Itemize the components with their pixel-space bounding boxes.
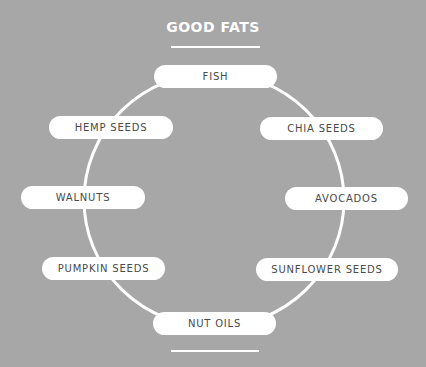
item-avocados: AVOCADOS: [285, 187, 408, 210]
item-chia-seeds: CHIA SEEDS: [260, 117, 383, 140]
bottom-rule: [171, 350, 259, 352]
item-label: SUNFLOWER SEEDS: [271, 264, 382, 275]
item-label: CHIA SEEDS: [287, 123, 356, 134]
item-pumpkin-seeds: PUMPKIN SEEDS: [42, 257, 165, 280]
item-label: PUMPKIN SEEDS: [58, 263, 150, 274]
item-label: WALNUTS: [56, 192, 111, 203]
item-label: AVOCADOS: [315, 193, 378, 204]
item-nut-oils: NUT OILS: [153, 312, 276, 335]
item-fish: FISH: [154, 65, 277, 88]
item-label: NUT OILS: [188, 318, 241, 329]
item-label: FISH: [203, 71, 229, 82]
item-hemp-seeds: HEMP SEEDS: [49, 116, 173, 139]
item-label: HEMP SEEDS: [75, 122, 148, 133]
item-walnuts: WALNUTS: [21, 186, 145, 209]
item-sunflower-seeds: SUNFLOWER SEEDS: [256, 258, 398, 281]
